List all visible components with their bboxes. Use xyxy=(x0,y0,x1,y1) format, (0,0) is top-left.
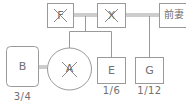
share-e: 1/6 xyxy=(97,86,126,96)
node-label-x: X xyxy=(97,10,126,21)
node-label-g: G xyxy=(135,65,164,76)
share-g: 1/12 xyxy=(133,86,166,96)
node-label-f: F xyxy=(47,10,74,21)
node-label-b: B xyxy=(6,61,39,72)
share-b: 3/4 xyxy=(6,92,39,102)
node-label-e: E xyxy=(97,65,126,76)
node-label-former-wife: 前妻 xyxy=(159,10,186,20)
node-label-a: A xyxy=(47,63,92,74)
